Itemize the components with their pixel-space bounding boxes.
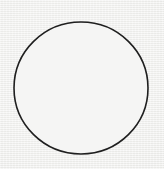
circle-outline [14,22,148,154]
circle-figure [0,0,164,169]
figure-canvas [0,0,164,169]
